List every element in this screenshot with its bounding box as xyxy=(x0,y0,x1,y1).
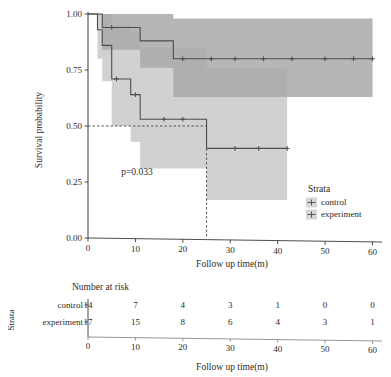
y-tick-label: 0.00 xyxy=(66,233,82,243)
risk-cell: 8 xyxy=(181,317,186,327)
risk-x-tick-label: 0 xyxy=(86,341,91,351)
risk-cell: 3 xyxy=(228,300,233,310)
kaplan-meier-plot: 0.000.250.500.751.000102030405060Surviva… xyxy=(0,0,391,377)
x-axis-line xyxy=(88,238,382,242)
risk-table: Number at riskStratacontrol14743100exper… xyxy=(6,282,382,373)
risk-cell: 4 xyxy=(181,300,186,310)
x-tick-label: 60 xyxy=(368,247,378,257)
risk-cell: 0 xyxy=(370,300,375,310)
risk-x-tick-label: 30 xyxy=(226,343,236,353)
x-axis-title: Follow up time(m) xyxy=(196,259,268,270)
x-tick-label: 20 xyxy=(178,244,188,254)
risk-x-tick-label: 20 xyxy=(178,342,188,352)
y-tick-label: 0.50 xyxy=(66,121,82,131)
risk-cell: 14 xyxy=(84,300,94,310)
risk-cell: 15 xyxy=(131,317,141,327)
legend-title: Strata xyxy=(308,184,331,194)
risk-cell: 7 xyxy=(133,300,138,310)
p-value-annotation: p=0.033 xyxy=(121,167,153,177)
risk-x-tick-label: 50 xyxy=(321,344,331,354)
risk-cell: 17 xyxy=(84,317,94,327)
y-tick-label: 0.75 xyxy=(66,65,82,75)
risk-x-axis-line xyxy=(88,337,382,341)
survival-figure: 0.000.250.500.751.000102030405060Surviva… xyxy=(0,0,391,377)
risk-cell: 1 xyxy=(370,317,375,327)
risk-cell: 3 xyxy=(323,317,328,327)
risk-x-tick-label: 40 xyxy=(273,344,283,354)
x-tick-label: 10 xyxy=(131,244,141,254)
y-axis-title: Survival probability xyxy=(34,92,44,169)
legend-label-experiment: experiment xyxy=(321,209,362,219)
y-tick-label: 1.00 xyxy=(66,9,82,19)
legend: Stratacontrolexperiment xyxy=(306,184,362,220)
y-tick-label: 0.25 xyxy=(66,177,82,187)
risk-table-title: Number at risk xyxy=(72,282,129,292)
risk-strata-axis-label: Strata xyxy=(6,310,16,331)
risk-row-label-control: control xyxy=(58,300,84,310)
risk-cell: 4 xyxy=(275,317,280,327)
risk-cell: 6 xyxy=(228,317,233,327)
x-tick-label: 50 xyxy=(321,246,331,256)
risk-cell: 1 xyxy=(275,300,280,310)
x-tick-label: 0 xyxy=(86,243,91,253)
risk-x-axis-title: Follow up time(m) xyxy=(196,362,268,373)
x-tick-label: 40 xyxy=(273,246,283,256)
x-tick-label: 30 xyxy=(226,245,236,255)
legend-label-control: control xyxy=(321,197,347,207)
risk-x-tick-label: 60 xyxy=(368,345,378,355)
risk-cell: 0 xyxy=(323,300,328,310)
risk-x-tick-label: 10 xyxy=(131,342,141,352)
risk-row-label-experiment: experiment xyxy=(43,317,84,327)
